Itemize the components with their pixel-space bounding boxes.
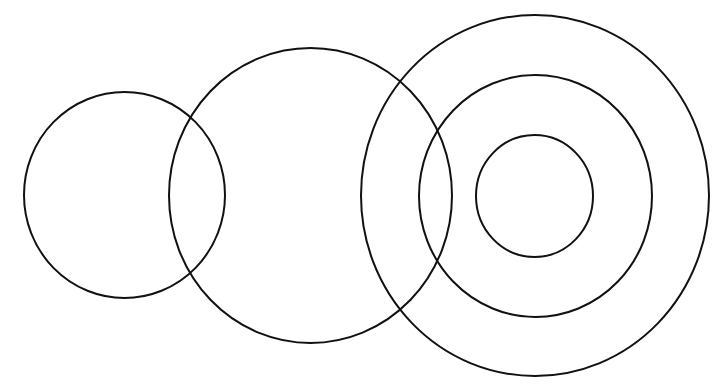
circle-middle — [169, 48, 452, 343]
circle-left-small — [24, 92, 225, 298]
circle-concentric-outer — [361, 15, 709, 376]
circle-concentric-inner — [476, 135, 593, 257]
circle-concentric-middle — [419, 75, 652, 317]
diagram-canvas — [0, 0, 725, 385]
